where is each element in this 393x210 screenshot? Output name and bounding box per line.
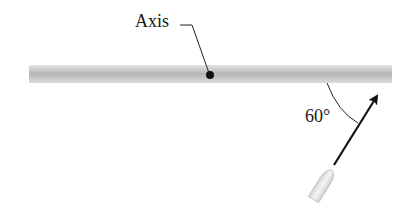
angle-arc [327,83,358,123]
axis-label: Axis [135,11,169,32]
diagram-canvas [0,0,393,210]
velocity-arrow [334,96,377,165]
bullet [308,167,337,203]
angle-label: 60° [305,106,330,127]
pivot-dot [206,71,214,79]
